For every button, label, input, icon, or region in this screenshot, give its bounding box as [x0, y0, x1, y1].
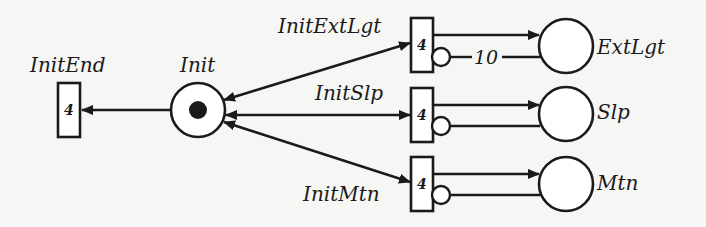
inhibitor-circle-icon: [432, 48, 450, 66]
transition-initextlgt-label: InitExtLgt: [277, 14, 382, 38]
place-init[interactable]: Init: [171, 53, 225, 137]
transition-initend-priority: 4: [64, 102, 74, 118]
place-extlgt[interactable]: ExtLgt: [539, 19, 666, 73]
transition-initend[interactable]: InitEnd 4: [29, 53, 106, 137]
transition-initextlgt[interactable]: 4: [411, 18, 433, 72]
transition-initslp[interactable]: 4: [411, 88, 433, 142]
transition-initslp-priority: 4: [417, 107, 427, 123]
place-slp-label: Slp: [597, 100, 630, 124]
place-init-label: Init: [179, 53, 216, 77]
transition-initmtn-priority: 4: [417, 176, 427, 192]
place-extlgt-label: ExtLgt: [596, 35, 666, 59]
transition-initslp-label: InitSlp: [314, 81, 383, 105]
inhibitor-weight-label: 10: [474, 46, 498, 68]
place-slp[interactable]: Slp: [539, 87, 630, 141]
arc-init-initmtn: [224, 122, 410, 182]
transition-initend-label: InitEnd: [29, 53, 106, 77]
inhibitor-circle-icon: [432, 117, 450, 135]
transition-initmtn-label: InitMtn: [302, 182, 380, 206]
petri-net-diagram: InitEnd 4 Init InitExtLgt InitSlp InitMt…: [0, 0, 706, 227]
token-icon: [189, 101, 207, 119]
transition-initextlgt-priority: 4: [417, 37, 427, 53]
place-mtn-label: Mtn: [596, 171, 638, 195]
inhibitor-circle-icon: [432, 186, 450, 204]
transition-initmtn[interactable]: 4: [411, 157, 433, 211]
place-mtn[interactable]: Mtn: [539, 157, 638, 211]
